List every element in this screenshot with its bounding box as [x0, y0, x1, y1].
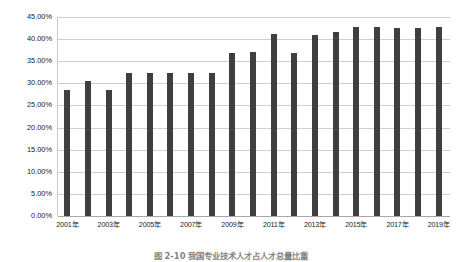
bar: [126, 73, 132, 216]
y-tick-label: 25.00%: [0, 100, 52, 109]
x-tick-label: 2015年: [345, 219, 367, 229]
x-axis-tick-labels: 2001年2003年2005年2007年2009年2011年2013年2015年…: [57, 219, 449, 233]
y-tick-label: 35.00%: [0, 56, 52, 65]
bar: [147, 73, 153, 216]
y-tick-label: 10.00%: [0, 167, 52, 176]
bar: [85, 81, 91, 216]
x-tick-label: 2001年: [56, 219, 78, 229]
x-tick-label: 2003年: [98, 219, 120, 229]
figure-caption: 图 2-10 我国专业技术人才占人才总量比重: [0, 249, 462, 261]
bar: [250, 52, 256, 216]
x-tick-label: 2009年: [221, 219, 243, 229]
bar: [188, 73, 194, 216]
bar: [374, 27, 380, 216]
bar: [229, 53, 235, 216]
bar: [209, 73, 215, 216]
y-tick-label: 30.00%: [0, 78, 52, 87]
gridline-0.00: [58, 216, 450, 217]
bar: [415, 28, 421, 216]
bar-chart: 0.00%5.00%10.00%15.00%20.00%25.00%30.00%…: [0, 0, 462, 262]
bar: [271, 34, 277, 216]
bar: [312, 35, 318, 216]
x-tick-label: 2017年: [386, 219, 408, 229]
bar-series: [57, 17, 449, 216]
bar: [106, 90, 112, 216]
y-tick-label: 0.00%: [0, 211, 52, 220]
y-tick-label: 15.00%: [0, 145, 52, 154]
bar: [291, 53, 297, 216]
x-tick-label: 2019年: [428, 219, 450, 229]
y-tick-label: 20.00%: [0, 123, 52, 132]
bar: [353, 27, 359, 216]
bar: [436, 27, 442, 216]
y-tick-label: 5.00%: [0, 189, 52, 198]
y-tick-label: 45.00%: [0, 12, 52, 21]
x-tick-label: 2011年: [263, 219, 284, 229]
x-tick-label: 2007年: [180, 219, 202, 229]
x-tick-label: 2013年: [304, 219, 326, 229]
bar: [167, 73, 173, 216]
bar: [333, 32, 339, 216]
bar: [394, 28, 400, 216]
bar: [64, 90, 70, 216]
y-tick-label: 40.00%: [0, 34, 52, 43]
x-tick-label: 2005年: [139, 219, 161, 229]
